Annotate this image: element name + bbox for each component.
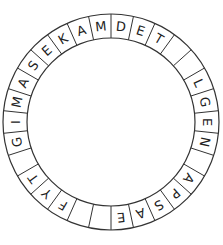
segment-dividers: [4, 14, 219, 230]
inner-circle: [27, 38, 195, 206]
segment-letter: E: [134, 22, 146, 39]
segment-letter: A: [180, 170, 197, 186]
segment-letter: A: [134, 205, 147, 222]
segment-divider: [89, 16, 94, 39]
segment-divider: [128, 16, 133, 39]
segment-letter: S: [152, 197, 167, 214]
segment-letter: D: [115, 19, 127, 35]
segment-letter: Y: [39, 185, 56, 202]
segment-letter: E: [200, 118, 215, 126]
segment-letter: A: [75, 22, 88, 39]
segment-letters: DETLGENAPSAEFYTGIMASEKAM: [8, 18, 215, 225]
segment-divider: [89, 204, 94, 227]
segment-letter: A: [15, 76, 32, 90]
letter-ring-diagram: DETLGENAPSAEFYTGIMASEKAM: [0, 0, 223, 245]
segment-letter: E: [39, 42, 55, 59]
segment-letter: M: [95, 18, 108, 34]
segment-divider: [4, 131, 28, 134]
segment-letter: T: [25, 171, 42, 187]
segment-divider: [173, 50, 191, 66]
segment-divider: [195, 131, 219, 134]
segment-letter: T: [151, 30, 166, 47]
segment-letter: F: [56, 197, 70, 214]
segment-divider: [4, 111, 28, 114]
segment-letter: E: [116, 210, 126, 226]
segment-letter: P: [167, 185, 183, 202]
segment-letter: K: [56, 30, 71, 47]
segment-letter: G: [197, 96, 214, 109]
outer-circle: [3, 14, 219, 230]
segment-letter: L: [190, 77, 207, 90]
segment-divider: [191, 148, 214, 155]
segment-letter: S: [25, 58, 42, 74]
segment-divider: [128, 204, 133, 227]
segment-letter: G: [9, 135, 26, 148]
ring-canvas: DETLGENAPSAEFYTGIMASEKAM: [0, 0, 223, 245]
segment-divider: [195, 111, 219, 114]
segment-letter: N: [197, 136, 214, 149]
segment-letter: M: [9, 95, 26, 109]
segment-letter: I: [8, 120, 23, 124]
